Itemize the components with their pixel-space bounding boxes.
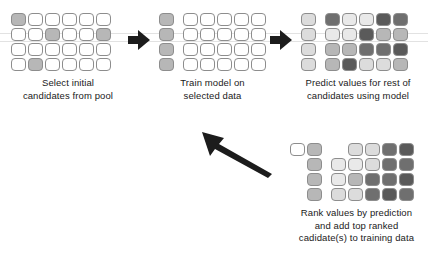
grid-row <box>324 42 409 57</box>
grid-cell <box>393 13 408 26</box>
grid-row <box>182 57 267 72</box>
grid-row <box>182 12 267 27</box>
caption-line: Rank values by prediction <box>289 207 424 220</box>
grid-cell <box>200 28 215 41</box>
grid-cell <box>96 43 111 56</box>
grid-cell <box>325 13 340 26</box>
grid-cell <box>62 13 77 26</box>
grid-cell <box>399 173 414 186</box>
grid-row <box>300 12 317 27</box>
grid-row <box>158 57 175 72</box>
grid-cell <box>11 13 26 26</box>
grid-cell <box>342 13 357 26</box>
grid-cell <box>11 43 26 56</box>
grid-cell <box>251 28 266 41</box>
grid-cell <box>251 43 266 56</box>
grid-predict-values-pool <box>324 12 409 72</box>
grid-cell <box>217 43 232 56</box>
grid-row <box>158 42 175 57</box>
grid-cell <box>79 58 94 71</box>
grid-cell <box>159 58 174 71</box>
grid-cell <box>45 13 60 26</box>
grid-cell <box>234 28 249 41</box>
grid-row <box>158 12 175 27</box>
grid-cell <box>382 158 397 171</box>
grid-cell <box>348 143 363 156</box>
grid-cell <box>79 13 94 26</box>
grid-row <box>324 27 409 42</box>
grid-cell <box>376 28 391 41</box>
grid-cell <box>348 188 363 201</box>
grid-cell <box>393 43 408 56</box>
grid-cell <box>183 13 198 26</box>
grid-train-model <box>158 12 267 72</box>
grid-cell <box>359 58 374 71</box>
grid-cell <box>365 188 380 201</box>
grid-rank-values <box>289 142 424 202</box>
grid-rank-values-pool <box>330 142 415 202</box>
grid-cell <box>399 143 414 156</box>
grid-train-model-pool <box>182 12 267 72</box>
grid-cell <box>200 13 215 26</box>
grid-cell <box>290 143 305 156</box>
caption-line: Select initial <box>10 77 126 90</box>
grid-cell <box>28 28 43 41</box>
grid-row <box>330 142 415 157</box>
grid-row <box>182 27 267 42</box>
grid-row <box>330 172 415 187</box>
arrow-stage1-to-stage2-icon <box>128 30 150 50</box>
grid-cell <box>251 58 266 71</box>
grid-row <box>324 12 409 27</box>
caption-line: selected data <box>158 90 267 103</box>
stage-rank-values: Rank values by prediction and add top ra… <box>289 142 424 245</box>
grid-row <box>330 187 415 202</box>
grid-cell <box>342 58 357 71</box>
grid-row <box>10 57 126 72</box>
grid-cell <box>217 13 232 26</box>
stage-select-initial-candidates: Select initial candidates from pool <box>10 12 126 102</box>
grid-predict-values <box>300 12 416 72</box>
grid-row <box>10 12 126 27</box>
grid-cell <box>359 13 374 26</box>
grid-cell <box>217 58 232 71</box>
grid-cell <box>399 158 414 171</box>
grid-cell <box>200 58 215 71</box>
grid-cell <box>376 13 391 26</box>
grid-cell <box>393 28 408 41</box>
grid-cell <box>79 28 94 41</box>
grid-cell <box>307 158 322 171</box>
caption-line: candidates from pool <box>10 90 126 103</box>
grid-cell <box>11 28 26 41</box>
grid-cell <box>307 173 322 186</box>
grid-cell <box>183 43 198 56</box>
grid-row <box>182 42 267 57</box>
arrow-stage4-to-stage2-icon <box>198 126 276 178</box>
grid-row <box>289 142 323 157</box>
grid-cell <box>307 188 322 201</box>
grid-cell <box>301 28 316 41</box>
grid-rank-values-selected <box>289 142 323 202</box>
stage-predict-values: Predict values for rest of candidates us… <box>300 12 416 102</box>
grid-row <box>289 187 323 202</box>
grid-cell <box>382 188 397 201</box>
grid-cell <box>365 173 380 186</box>
grid-cell <box>325 58 340 71</box>
grid-cell <box>234 58 249 71</box>
grid-cell <box>11 58 26 71</box>
grid-cell <box>234 43 249 56</box>
grid-cell <box>301 58 316 71</box>
grid-train-model-selected <box>158 12 175 72</box>
grid-row <box>300 27 317 42</box>
caption-line: Train model on <box>158 77 267 90</box>
grid-cell <box>62 58 77 71</box>
grid-cell <box>62 28 77 41</box>
grid-cell <box>301 43 316 56</box>
grid-cell <box>331 188 346 201</box>
grid-cell <box>365 143 380 156</box>
stage-train-model: Train model on selected data <box>158 12 267 102</box>
grid-row <box>324 57 409 72</box>
grid-cell <box>96 58 111 71</box>
caption-rank-values: Rank values by prediction and add top ra… <box>289 207 424 245</box>
grid-row <box>10 27 126 42</box>
grid-cell <box>45 58 60 71</box>
